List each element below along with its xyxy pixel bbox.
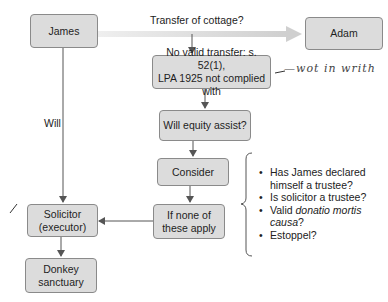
- node-james: James: [30, 14, 98, 48]
- node-if-none: If none of these apply: [153, 204, 225, 239]
- donkey-line1: Donkey: [43, 263, 79, 276]
- consideration-item: Estoppel?: [258, 229, 388, 242]
- solicitor-line1: Solicitor: [44, 208, 81, 221]
- consideration-item: Valid donatio mortis causa?: [258, 204, 388, 229]
- node-no-valid-transfer: No valid transfer: s. 52(1), LPA 1925 no…: [152, 55, 271, 89]
- node-donkey-sanctuary: Donkey sanctuary: [25, 258, 97, 293]
- handwritten-note: —wot in writh: [284, 62, 376, 75]
- node-consider-label: Consider: [172, 166, 214, 179]
- node-james-label: James: [49, 25, 80, 38]
- if-none-line1: If none of: [167, 209, 211, 222]
- node-adam: Adam: [305, 17, 383, 50]
- edge-label-transfer: Transfer of cottage?: [150, 14, 244, 26]
- node-equity-label: Will equity assist?: [163, 119, 246, 132]
- consideration-item: Has James declared himself a trustee?: [258, 166, 388, 191]
- consideration-item: Is solicitor a trustee?: [258, 191, 388, 204]
- tick-mark: [10, 204, 17, 213]
- considerations-list: Has James declared himself a trustee? Is…: [258, 166, 388, 241]
- no-valid-line2: LPA 1925 not complied with: [153, 72, 270, 98]
- node-adam-label: Adam: [330, 27, 357, 40]
- brace: [241, 153, 252, 256]
- transfer-arrow: [98, 26, 302, 42]
- solicitor-line2: (executor): [39, 221, 86, 234]
- if-none-line2: these apply: [162, 222, 216, 235]
- edge-label-will: Will: [44, 117, 61, 129]
- node-equity: Will equity assist?: [159, 110, 251, 141]
- no-valid-line1: No valid transfer: s. 52(1),: [153, 46, 270, 72]
- node-solicitor: Solicitor (executor): [27, 204, 98, 237]
- donkey-line2: sanctuary: [38, 276, 84, 289]
- node-consider: Consider: [157, 158, 229, 186]
